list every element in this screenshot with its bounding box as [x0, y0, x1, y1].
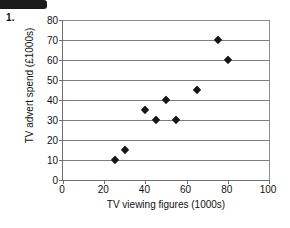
- y-axis-tick-label: 70: [47, 35, 58, 46]
- data-point: [223, 56, 232, 65]
- plot-area: [62, 20, 270, 181]
- scatter-chart-figure: 01020304050607080 020406080100 TV viewin…: [0, 0, 290, 228]
- y-axis-tick: [59, 20, 63, 21]
- y-axis-tick-label: 40: [47, 95, 58, 106]
- x-axis-tick-labels: 020406080100: [62, 184, 270, 198]
- data-point: [141, 106, 150, 115]
- gridline: [63, 160, 269, 161]
- y-axis-tick-label: 0: [52, 175, 58, 186]
- x-axis-title: TV viewing figures (1000s): [62, 199, 270, 210]
- y-axis-tick: [59, 40, 63, 41]
- x-axis-tick-label: 40: [139, 184, 150, 195]
- x-axis-tick-label: 100: [260, 184, 277, 195]
- y-axis-tick: [59, 160, 63, 161]
- data-point: [151, 116, 160, 125]
- x-axis-tick-label: 80: [221, 184, 232, 195]
- data-point: [172, 116, 181, 125]
- y-axis-tick-label: 10: [47, 155, 58, 166]
- data-point: [162, 96, 171, 105]
- x-axis-tick-label: 60: [180, 184, 191, 195]
- x-axis-tick-label: 20: [98, 184, 109, 195]
- y-axis-tick-labels: 01020304050607080: [36, 20, 58, 181]
- gridline: [63, 120, 269, 121]
- data-point: [193, 86, 202, 95]
- y-axis-tick: [59, 140, 63, 141]
- data-point: [120, 146, 129, 155]
- y-axis-tick: [59, 80, 63, 81]
- y-axis-tick: [59, 120, 63, 121]
- gridline: [63, 60, 269, 61]
- y-axis-title: TV advert spend (£1000s): [24, 6, 35, 166]
- gridline: [63, 80, 269, 81]
- y-axis-tick: [59, 60, 63, 61]
- y-axis-tick-label: 20: [47, 135, 58, 146]
- data-point: [110, 156, 119, 165]
- y-axis-tick-label: 30: [47, 115, 58, 126]
- y-axis-tick: [59, 100, 63, 101]
- gridline: [63, 40, 269, 41]
- x-axis-tick-label: 0: [59, 184, 65, 195]
- gridline: [63, 140, 269, 141]
- y-axis-tick-label: 50: [47, 75, 58, 86]
- data-point: [213, 36, 222, 45]
- y-axis-tick-label: 80: [47, 15, 58, 26]
- gridline: [63, 20, 269, 21]
- y-axis-tick-label: 60: [47, 55, 58, 66]
